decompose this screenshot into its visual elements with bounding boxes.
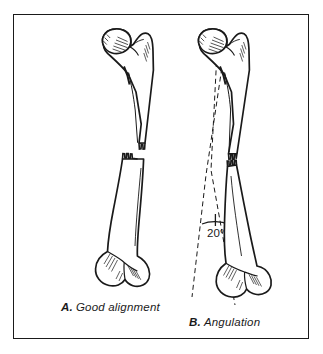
- panel-b-proximal-fragment: [199, 29, 250, 160]
- panel-a-fracture-edge-distal: [123, 154, 138, 160]
- figure-root: 20° A.Good alignment B.Angulation: [0, 0, 323, 354]
- panel-b-axis-line-proximal: [192, 60, 223, 297]
- caption-panel-b-letter: B.: [189, 316, 201, 328]
- panel-b-distal-fragment: [216, 160, 271, 297]
- panel-a-distal-fragment: [96, 154, 150, 287]
- caption-panel-a: A.Good alignment: [61, 301, 160, 313]
- caption-panel-b-text: Angulation: [204, 316, 260, 328]
- panel-b-femur: [192, 29, 271, 305]
- panel-a-femur: [96, 29, 154, 286]
- panel-a-distal-outline: [96, 159, 150, 286]
- panel-a-proximal-fragment: [103, 29, 154, 149]
- caption-panel-a-text: Good alignment: [76, 301, 160, 313]
- panel-b-distal-outline: [216, 165, 271, 297]
- caption-panel-b: B.Angulation: [189, 316, 260, 328]
- caption-panel-a-letter: A.: [61, 301, 73, 313]
- angle-measurement-label: 20°: [207, 227, 224, 239]
- bone-illustration-canvas: [0, 0, 323, 354]
